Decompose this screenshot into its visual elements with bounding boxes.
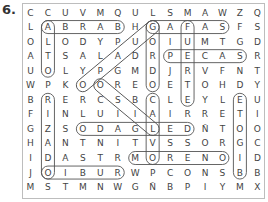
grid-letter: T xyxy=(249,64,265,78)
grid-letter: S xyxy=(232,49,248,63)
grid-letter: I xyxy=(197,180,213,194)
grid-letter: P xyxy=(145,166,161,180)
grid-letter: I xyxy=(23,151,39,165)
grid-letter: B xyxy=(75,166,91,180)
grid-letter: U xyxy=(92,166,108,180)
grid-letter: R xyxy=(40,93,56,107)
grid-letter: S xyxy=(75,151,91,165)
grid-letter: B xyxy=(249,166,265,180)
grid-letter: O xyxy=(197,136,213,150)
grid-letter: R xyxy=(110,78,126,92)
grid-letter: M xyxy=(92,6,108,20)
grid-letter: O xyxy=(180,166,196,180)
grid-letter: S xyxy=(162,6,178,20)
grid-letter: S xyxy=(249,20,265,34)
grid-letter: I xyxy=(249,107,265,121)
grid-letter: O xyxy=(40,64,56,78)
grid-letter: D xyxy=(127,49,143,63)
grid-letter: B xyxy=(57,20,73,34)
grid-letter: N xyxy=(197,151,213,165)
grid-letter: O xyxy=(232,122,248,136)
grid-letter: R xyxy=(249,49,265,63)
grid-letter: A xyxy=(214,49,230,63)
grid-letter: J xyxy=(23,166,39,180)
grid-letter: T xyxy=(92,151,108,165)
grid-letter: M xyxy=(180,6,196,20)
grid-letter: A xyxy=(110,49,126,63)
grid-letter: L xyxy=(162,93,178,107)
grid-letter: U xyxy=(249,93,265,107)
grid-letter: P xyxy=(92,64,108,78)
grid-letter: D xyxy=(180,122,196,136)
grid-letter: U xyxy=(127,6,143,20)
grid-letter: B xyxy=(232,166,248,180)
grid-letter: W xyxy=(110,180,126,194)
grid-letter: S xyxy=(40,180,56,194)
grid-letter: H xyxy=(127,20,143,34)
grid-letter: U xyxy=(92,107,108,121)
grid-letter: A xyxy=(92,20,108,34)
grid-letter: Y xyxy=(214,180,230,194)
grid-letter: I xyxy=(232,151,248,165)
grid-letter: A xyxy=(40,136,56,150)
grid-letter: E xyxy=(162,122,178,136)
grid-letter: A xyxy=(145,107,161,121)
grid-letter: E xyxy=(127,78,143,92)
grid-letter: M xyxy=(197,35,213,49)
exercise-number: 6. xyxy=(2,2,16,17)
grid-letter: K xyxy=(57,78,73,92)
grid-letter: V xyxy=(197,64,213,78)
grid-letter: B xyxy=(23,93,39,107)
grid-letter: E xyxy=(57,93,73,107)
grid-letter: E xyxy=(180,93,196,107)
grid-letter: M xyxy=(127,151,143,165)
grid-letter: Y xyxy=(75,64,91,78)
grid-letter: R xyxy=(180,64,196,78)
grid-letter: M xyxy=(127,64,143,78)
grid-letter: G xyxy=(232,136,248,150)
grid-letter: N xyxy=(57,136,73,150)
grid-letter: Y xyxy=(197,93,213,107)
grid-letter: E xyxy=(180,151,196,165)
grid-letter: T xyxy=(214,35,230,49)
grid-letter: R xyxy=(180,107,196,121)
grid-letter: A xyxy=(23,49,39,63)
grid-letter: W xyxy=(23,78,39,92)
grid-letter: L xyxy=(23,20,39,34)
grid-letter: T xyxy=(232,107,248,121)
grid-letter: E xyxy=(180,49,196,63)
grid-letter: U xyxy=(57,6,73,20)
grid-letter: Y xyxy=(249,78,265,92)
grid-letter: A xyxy=(75,49,91,63)
grid-letter: S xyxy=(180,136,196,150)
grid-letter: G xyxy=(127,180,143,194)
grid-letter: C xyxy=(23,6,39,20)
grid-letter: I xyxy=(162,107,178,121)
grid-letter: A xyxy=(57,151,73,165)
grid-letter: H xyxy=(214,78,230,92)
grid-letter: T xyxy=(214,122,230,136)
grid-letter: G xyxy=(232,35,248,49)
grid-letter: E xyxy=(162,78,178,92)
grid-letter: N xyxy=(92,180,108,194)
grid-letter: D xyxy=(232,78,248,92)
grid-letter: O xyxy=(197,78,213,92)
grid-letter: B xyxy=(162,180,178,194)
grid-letter: T xyxy=(75,136,91,150)
grid-letter: E xyxy=(214,107,230,121)
grid-letter: H xyxy=(23,136,39,150)
grid-letter: C xyxy=(92,93,108,107)
grid-letter: R xyxy=(110,166,126,180)
grid-letter: D xyxy=(249,151,265,165)
grid-letter: A xyxy=(162,20,178,34)
grid-letter: M xyxy=(75,180,91,194)
grid-letter: D xyxy=(249,35,265,49)
grid-letter: A xyxy=(40,20,56,34)
grid-letter: Y xyxy=(92,35,108,49)
grid-letter: R xyxy=(110,151,126,165)
grid-letter: G xyxy=(23,122,39,136)
grid-letter: R xyxy=(75,93,91,107)
grid-letter: O xyxy=(214,151,230,165)
grid-letter: I xyxy=(162,35,178,49)
grid-letter: R xyxy=(145,49,161,63)
